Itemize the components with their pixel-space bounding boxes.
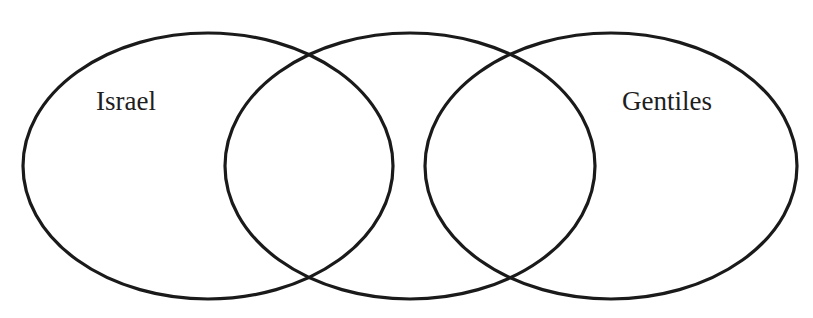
set-label-israel: Israel	[96, 86, 156, 116]
set-ellipse-israel	[23, 33, 393, 299]
set-ellipse-gentiles	[425, 33, 797, 299]
venn-diagram	[0, 0, 813, 318]
set-ellipse-middle	[225, 33, 595, 299]
set-label-gentiles: Gentiles	[622, 86, 712, 116]
